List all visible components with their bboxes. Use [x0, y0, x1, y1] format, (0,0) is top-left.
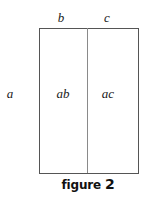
region-label-ac: ac: [102, 87, 114, 100]
side-label-a: a: [7, 87, 14, 100]
caption-number: 2: [105, 176, 115, 192]
caption-word: figure: [62, 178, 101, 192]
region-label-ab: ab: [57, 87, 70, 100]
vertical-divider: [87, 28, 88, 173]
figure-caption: figure 2: [62, 176, 115, 192]
top-label-b: b: [58, 11, 65, 24]
outer-rectangle: [39, 28, 139, 174]
top-label-c: c: [104, 11, 110, 24]
